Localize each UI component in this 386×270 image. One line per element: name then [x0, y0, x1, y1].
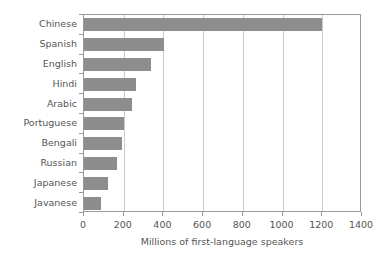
x-axis-label-200: 200: [114, 219, 132, 230]
bar-english: [84, 58, 151, 71]
y-axis-label-arabic: Arabic: [47, 98, 77, 109]
bar-row: [84, 137, 360, 150]
bar-row: [84, 98, 360, 111]
x-axis-label-1400: 1400: [349, 219, 373, 230]
x-axis-label-1000: 1000: [269, 219, 293, 230]
bar-row: [84, 157, 360, 170]
x-axis-label-400: 400: [153, 219, 171, 230]
y-axis-label-russian: Russian: [40, 157, 77, 168]
x-axis-tick: [282, 212, 283, 216]
bar-row: [84, 177, 360, 190]
x-axis-tick: [123, 212, 124, 216]
bar-row: [84, 18, 360, 31]
bar-spanish: [84, 38, 164, 51]
y-axis-label-hindi: Hindi: [53, 78, 77, 89]
bar-japanese: [84, 177, 108, 190]
bar-row: [84, 38, 360, 51]
bar-hindi: [84, 78, 136, 91]
x-axis-tick: [242, 212, 243, 216]
x-axis-tick: [202, 212, 203, 216]
y-axis-label-spanish: Spanish: [39, 38, 77, 49]
x-axis-label-1200: 1200: [309, 219, 333, 230]
x-axis-label-800: 800: [233, 219, 251, 230]
plot-area: [83, 14, 361, 212]
x-axis-label-600: 600: [193, 219, 211, 230]
y-axis-label-chinese: Chinese: [39, 18, 77, 29]
bar-row: [84, 58, 360, 71]
bar-row: [84, 78, 360, 91]
bar-arabic: [84, 98, 132, 111]
bars-layer: [84, 15, 360, 211]
x-axis-label-0: 0: [80, 219, 86, 230]
y-axis-label-portuguese: Portuguese: [23, 117, 77, 128]
x-axis-title: Millions of first-language speakers: [83, 236, 361, 247]
y-axis-label-english: English: [43, 58, 77, 69]
bar-row: [84, 197, 360, 210]
bar-chart: ChineseSpanishEnglishHindiArabicPortugue…: [0, 0, 386, 270]
x-axis-tick: [162, 212, 163, 216]
x-axis-tick: [361, 212, 362, 216]
y-axis-labels: ChineseSpanishEnglishHindiArabicPortugue…: [0, 14, 77, 212]
x-axis-tick: [321, 212, 322, 216]
bar-chinese: [84, 18, 322, 31]
bar-bengali: [84, 137, 122, 150]
x-axis-tick: [83, 212, 84, 216]
y-axis-label-javanese: Javanese: [34, 197, 77, 208]
bar-russian: [84, 157, 117, 170]
bar-row: [84, 117, 360, 130]
bar-javanese: [84, 197, 101, 210]
y-axis-label-japanese: Japanese: [34, 177, 77, 188]
y-axis-label-bengali: Bengali: [41, 137, 77, 148]
bar-portuguese: [84, 117, 124, 130]
